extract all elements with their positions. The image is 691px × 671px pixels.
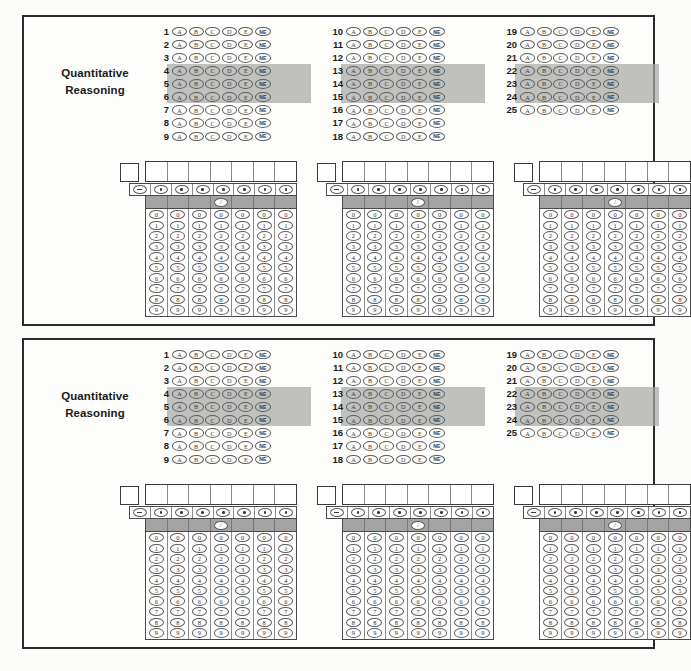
bubble-digit-2[interactable]: 2	[278, 231, 293, 240]
bubble-digit-9[interactable]: 9	[651, 305, 666, 314]
bubble-digit-8[interactable]: 8	[278, 618, 293, 627]
write-cell[interactable]	[343, 485, 365, 504]
write-cell[interactable]	[189, 162, 211, 181]
bubble-decimal[interactable]	[258, 508, 272, 517]
sign-cell[interactable]	[348, 507, 369, 518]
bubble-digit-8[interactable]: 8	[170, 295, 185, 304]
bubble-digit-1[interactable]: 1	[432, 544, 447, 553]
slash-cell[interactable]	[254, 196, 276, 208]
sign-cell[interactable]	[608, 507, 629, 518]
bubble-digit-1[interactable]: 1	[608, 221, 623, 230]
bubble-digit-1[interactable]: 1	[475, 221, 490, 230]
bubble-c[interactable]: C	[379, 40, 394, 50]
bubble-ne[interactable]: NE	[255, 40, 271, 50]
bubble-digit-1[interactable]: 1	[543, 544, 558, 553]
bubble-digit-7[interactable]: 7	[651, 607, 666, 616]
bubble-b[interactable]: B	[537, 53, 552, 63]
bubble-c[interactable]: C	[379, 350, 394, 360]
bubble-digit-6[interactable]: 6	[586, 273, 601, 282]
bubble-c[interactable]: C	[205, 428, 220, 438]
bubble-digit-5[interactable]: 5	[214, 263, 229, 272]
bubble-c[interactable]: C	[379, 441, 394, 451]
bubble-digit-1[interactable]: 1	[235, 544, 250, 553]
bubble-digit-8[interactable]: 8	[672, 618, 687, 627]
bubble-c[interactable]: C	[553, 79, 568, 89]
bubble-b[interactable]: B	[189, 376, 204, 386]
bubble-digit-8[interactable]: 8	[586, 618, 601, 627]
bubble-d[interactable]: D	[570, 428, 585, 438]
bubble-digit-0[interactable]: 0	[235, 533, 250, 542]
bubble-digit-2[interactable]: 2	[257, 231, 272, 240]
sign-cell[interactable]	[390, 507, 411, 518]
bubble-digit-4[interactable]: 4	[432, 575, 447, 584]
bubble-digit-1[interactable]: 1	[389, 544, 404, 553]
bubble-ne[interactable]: NE	[603, 350, 619, 360]
sign-cell[interactable]	[130, 507, 151, 518]
bubble-decimal[interactable]	[476, 508, 490, 517]
bubble-digit-1[interactable]: 1	[629, 544, 644, 553]
bubble-a[interactable]: A	[520, 389, 535, 399]
bubble-a[interactable]: A	[520, 66, 535, 76]
slash-cell[interactable]	[669, 519, 690, 531]
bubble-digit-2[interactable]: 2	[543, 554, 558, 563]
bubble-digit-3[interactable]: 3	[214, 242, 229, 251]
bubble-digit-5[interactable]: 5	[257, 263, 272, 272]
bubble-c[interactable]: C	[379, 402, 394, 412]
bubble-digit-5[interactable]: 5	[411, 263, 426, 272]
bubble-digit-0[interactable]: 0	[389, 210, 404, 219]
bubble-digit-5[interactable]: 5	[475, 586, 490, 595]
bubble-digit-0[interactable]: 0	[192, 533, 207, 542]
bubble-minus[interactable]	[527, 185, 541, 194]
bubble-digit-0[interactable]: 0	[608, 210, 623, 219]
bubble-c[interactable]: C	[553, 92, 568, 102]
bubble-e[interactable]: E	[412, 66, 427, 76]
bubble-b[interactable]: B	[363, 53, 378, 63]
bubble-digit-1[interactable]: 1	[411, 544, 426, 553]
bubble-digit-7[interactable]: 7	[543, 284, 558, 293]
bubble-decimal[interactable]	[590, 508, 604, 517]
bubble-e[interactable]: E	[586, 428, 601, 438]
bubble-digit-1[interactable]: 1	[214, 221, 229, 230]
bubble-e[interactable]: E	[238, 132, 253, 142]
bubble-digit-7[interactable]: 7	[257, 284, 272, 293]
bubble-b[interactable]: B	[537, 363, 552, 373]
slash-cell[interactable]	[626, 196, 648, 208]
bubble-c[interactable]: C	[205, 40, 220, 50]
bubble-digit-8[interactable]: 8	[367, 295, 382, 304]
bubble-digit-4[interactable]: 4	[278, 575, 293, 584]
bubble-a[interactable]: A	[172, 53, 187, 63]
bubble-digit-3[interactable]: 3	[192, 565, 207, 574]
bubble-digit-9[interactable]: 9	[432, 628, 447, 637]
bubble-d[interactable]: D	[570, 363, 585, 373]
bubble-decimal[interactable]	[279, 508, 293, 517]
bubble-ne[interactable]: NE	[429, 105, 445, 115]
bubble-digit-9[interactable]: 9	[543, 628, 558, 637]
bubble-digit-1[interactable]: 1	[651, 221, 666, 230]
bubble-digit-0[interactable]: 0	[629, 210, 644, 219]
slash-cell[interactable]	[562, 196, 584, 208]
bubble-a[interactable]: A	[172, 118, 187, 128]
bubble-digit-5[interactable]: 5	[608, 586, 623, 595]
bubble-b[interactable]: B	[537, 350, 552, 360]
bubble-a[interactable]: A	[520, 79, 535, 89]
bubble-digit-5[interactable]: 5	[367, 263, 382, 272]
bubble-e[interactable]: E	[412, 132, 427, 142]
bubble-a[interactable]: A	[346, 79, 361, 89]
bubble-ne[interactable]: NE	[255, 118, 271, 128]
slash-cell[interactable]	[648, 196, 670, 208]
bubble-digit-9[interactable]: 9	[278, 628, 293, 637]
bubble-e[interactable]: E	[412, 105, 427, 115]
grid-in-write-row[interactable]	[145, 484, 297, 505]
bubble-digit-0[interactable]: 0	[432, 210, 447, 219]
bubble-digit-1[interactable]: 1	[586, 221, 601, 230]
bubble-digit-8[interactable]: 8	[235, 295, 250, 304]
bubble-d[interactable]: D	[396, 455, 411, 465]
bubble-ne[interactable]: NE	[255, 350, 271, 360]
bubble-a[interactable]: A	[172, 441, 187, 451]
bubble-a[interactable]: A	[346, 363, 361, 373]
bubble-c[interactable]: C	[379, 27, 394, 37]
bubble-ne[interactable]: NE	[603, 415, 619, 425]
bubble-c[interactable]: C	[205, 350, 220, 360]
bubble-fraction-slash[interactable]: /	[411, 198, 425, 207]
bubble-digit-0[interactable]: 0	[367, 210, 382, 219]
